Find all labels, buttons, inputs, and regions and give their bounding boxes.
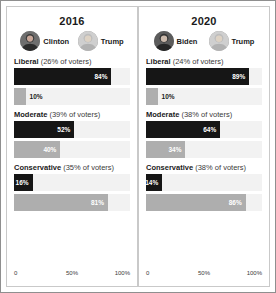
bar-value-label: 86% [229, 199, 246, 206]
category-label: Moderate (39% of voters) [14, 110, 130, 119]
candidate-photo-icon [209, 31, 229, 51]
legend-candidates: Clinton Trump [14, 31, 130, 51]
candidate-photo-icon [20, 31, 40, 51]
category-share: (38% of voters) [181, 110, 232, 119]
bar-republican: 86% [146, 194, 246, 211]
bar-track: 64% [146, 121, 262, 138]
category-label: Conservative (38% of voters) [146, 163, 262, 172]
bar-value-label: 81% [91, 199, 108, 206]
legend-candidates: Biden Trump [146, 31, 262, 51]
panel-2020: 2020 Biden Trump Liberal [138, 6, 270, 287]
bar-track: 81% [14, 194, 130, 211]
category-label: Conservative (35% of voters) [14, 163, 130, 172]
category-name: Liberal [14, 57, 39, 66]
legend-item-republican: Trump [209, 31, 255, 51]
bar-value-label: 16% [16, 179, 33, 186]
bar-democrat: 64% [146, 121, 220, 138]
panel-title: 2020 [146, 15, 262, 27]
bar-republican: 10% [146, 88, 158, 105]
bar-democrat: 14% [146, 174, 162, 191]
category-share: (35% of voters) [63, 163, 114, 172]
category-group-conservative: Conservative (35% of voters) 16% 81% [14, 163, 130, 214]
candidate-photo-icon [78, 31, 98, 51]
panel-2016: 2016 Clinton Trump Libera [6, 6, 138, 287]
x-axis: 0 50% 100% [146, 270, 262, 282]
chart-figure: 2016 Clinton Trump Libera [0, 0, 276, 293]
category-group-moderate: Moderate (38% of voters) 64% 34% [146, 110, 262, 161]
bar-track: 40% [14, 141, 130, 158]
candidate-photo-icon [154, 31, 174, 51]
category-group-conservative: Conservative (38% of voters) 14% 86% [146, 163, 262, 214]
bar-track: 14% [146, 174, 262, 191]
panel-container: 2016 Clinton Trump Libera [6, 6, 270, 287]
axis-tick-50: 50% [198, 270, 210, 276]
category-name: Moderate [146, 110, 179, 119]
category-label: Moderate (38% of voters) [146, 110, 262, 119]
candidate-name: Biden [177, 37, 198, 46]
legend-item-republican: Trump [78, 31, 124, 51]
bar-track: 52% [14, 121, 130, 138]
bar-track: 84% [14, 68, 130, 85]
category-name: Liberal [146, 57, 171, 66]
bar-democrat: 89% [146, 68, 249, 85]
panel-spacer [146, 216, 262, 267]
bar-track: 86% [146, 194, 262, 211]
category-label: Liberal (24% of voters) [146, 57, 262, 66]
candidate-name: Trump [232, 37, 255, 46]
bar-track: 10% [14, 88, 130, 105]
bar-track: 16% [14, 174, 130, 191]
category-name: Conservative [14, 163, 61, 172]
bar-value-label: 34% [168, 146, 185, 153]
bar-track: 34% [146, 141, 262, 158]
bar-value-label: 10% [158, 93, 175, 100]
category-label: Liberal (26% of voters) [14, 57, 130, 66]
bar-republican: 81% [14, 194, 108, 211]
bar-republican: 10% [14, 88, 26, 105]
bar-track: 10% [146, 88, 262, 105]
bar-value-label: 10% [26, 93, 43, 100]
category-group-moderate: Moderate (39% of voters) 52% 40% [14, 110, 130, 161]
bar-democrat: 52% [14, 121, 74, 138]
bar-value-label: 64% [203, 126, 220, 133]
bar-value-label: 52% [57, 126, 74, 133]
bar-democrat: 16% [14, 174, 33, 191]
bar-democrat: 84% [14, 68, 111, 85]
candidate-name: Clinton [43, 37, 69, 46]
x-axis: 0 50% 100% [14, 270, 130, 282]
bar-track: 89% [146, 68, 262, 85]
axis-tick-100: 100% [115, 270, 130, 276]
category-share: (39% of voters) [49, 110, 100, 119]
legend-item-democrat: Biden [154, 31, 198, 51]
bar-republican: 34% [146, 141, 185, 158]
candidate-name: Trump [101, 37, 124, 46]
axis-tick-0: 0 [14, 270, 17, 276]
axis-tick-100: 100% [247, 270, 262, 276]
category-share: (38% of voters) [195, 163, 246, 172]
bar-value-label: 89% [232, 73, 249, 80]
bar-value-label: 40% [43, 146, 60, 153]
category-share: (24% of voters) [173, 57, 224, 66]
panel-spacer [14, 216, 130, 267]
legend-item-democrat: Clinton [20, 31, 69, 51]
bar-value-label: 84% [94, 73, 111, 80]
bar-value-label: 14% [146, 179, 162, 186]
axis-tick-50: 50% [66, 270, 78, 276]
category-name: Conservative [146, 163, 193, 172]
category-group-liberal: Liberal (26% of voters) 84% 10% [14, 57, 130, 108]
category-group-liberal: Liberal (24% of voters) 89% 10% [146, 57, 262, 108]
panel-title: 2016 [14, 15, 130, 27]
category-name: Moderate [14, 110, 47, 119]
axis-tick-0: 0 [146, 270, 149, 276]
bar-republican: 40% [14, 141, 60, 158]
category-share: (26% of voters) [41, 57, 92, 66]
